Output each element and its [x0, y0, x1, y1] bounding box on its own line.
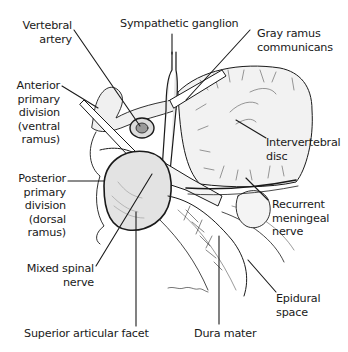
label-gray-ramus-communicans: Gray ramus communicans [257, 27, 333, 54]
label-posterior-primary-division: Posterior primary division (dorsal ramus… [2, 172, 66, 240]
label-epidural-space: Epidural space [276, 292, 320, 319]
dural-sac [168, 196, 247, 296]
superior-articular-facet-shape [104, 151, 171, 230]
label-superior-articular-facet: Superior articular facet [24, 327, 149, 341]
label-intervertebral-disc: Intervertebral disc [266, 136, 341, 163]
artist-signature [168, 287, 208, 292]
dura-hatching [184, 206, 222, 270]
label-recurrent-meningeal-nerve: Recurrent meningeal nerve [272, 198, 329, 239]
label-dura-mater: Dura mater [194, 327, 256, 341]
label-sympathetic-ganglion: Sympathetic ganglion [120, 17, 238, 31]
lamina-outline [90, 132, 104, 244]
label-vertebral-artery: Vertebral artery [20, 19, 72, 46]
lower-facet-shape [236, 191, 270, 228]
label-anterior-primary-division: Anterior primary division (ventral ramus… [2, 79, 60, 147]
label-mixed-spinal-nerve: Mixed spinal nerve [2, 262, 94, 289]
